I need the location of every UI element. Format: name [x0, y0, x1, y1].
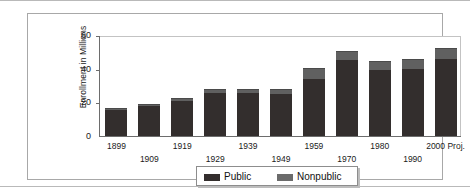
- bars-layer: [100, 36, 460, 136]
- bar-segment-public: [204, 93, 226, 136]
- x-axis-tick-label: 1909: [126, 154, 172, 164]
- y-axis-tick-label: 40: [69, 65, 91, 74]
- x-axis-tick-label: 1929: [192, 154, 238, 164]
- bar-segment-nonpublic: [435, 48, 457, 59]
- bar-segment-nonpublic: [336, 51, 358, 60]
- bar: [402, 59, 424, 136]
- y-axis-tick-label: 60: [69, 31, 91, 40]
- page-rule-top: [0, 0, 470, 1]
- x-axis-tick-label: 1949: [258, 154, 304, 164]
- legend-entry-public: Public: [204, 170, 251, 184]
- page-rule-bottom: [0, 186, 470, 187]
- bar: [369, 61, 391, 136]
- bar: [171, 98, 193, 136]
- x-axis-tick-label: 1990: [390, 154, 436, 164]
- bar-segment-public: [138, 106, 160, 136]
- x-axis-tick-label: 1919: [159, 141, 205, 151]
- bar-segment-public: [336, 60, 358, 136]
- bar-segment-public: [105, 110, 127, 136]
- x-axis-tick-label: 1959: [291, 141, 337, 151]
- bar-segment-nonpublic: [369, 61, 391, 69]
- y-axis-tick-label: 0: [69, 132, 91, 141]
- bar: [336, 51, 358, 136]
- bar: [105, 108, 127, 136]
- bar-segment-nonpublic: [402, 59, 424, 69]
- bar-segment-nonpublic: [138, 104, 160, 106]
- bar-segment-public: [303, 79, 325, 136]
- bar-segment-nonpublic: [303, 68, 325, 79]
- bar-segment-public: [237, 93, 259, 136]
- bar: [270, 89, 292, 136]
- bar-segment-public: [270, 94, 292, 136]
- bar: [435, 48, 457, 136]
- x-axis-tick-label: 1939: [225, 141, 271, 151]
- chart-outer-frame: Enrollment in Millions 0204060 189919091…: [27, 13, 443, 180]
- bar: [138, 104, 160, 136]
- bar: [303, 68, 325, 136]
- bar-segment-nonpublic: [171, 98, 193, 100]
- bar-segment-nonpublic: [204, 89, 226, 93]
- x-axis-tick-label: 1970: [324, 154, 370, 164]
- nonpublic-swatch-icon: [277, 174, 293, 181]
- public-swatch-icon: [204, 174, 220, 181]
- x-axis-tick-label: 1980: [357, 141, 403, 151]
- bar-segment-nonpublic: [270, 89, 292, 94]
- legend-entry-nonpublic: Nonpublic: [277, 170, 341, 184]
- x-axis-tick-label: 2000 Proj.: [423, 141, 469, 151]
- bar-segment-public: [435, 59, 457, 136]
- bar-segment-public: [171, 101, 193, 136]
- bar-segment-nonpublic: [105, 108, 127, 110]
- bar-segment-nonpublic: [237, 89, 259, 92]
- x-axis-tick-label: 1899: [93, 141, 139, 151]
- bar: [237, 89, 259, 136]
- bar: [204, 89, 226, 136]
- legend-label-nonpublic: Nonpublic: [297, 172, 341, 182]
- enrollment-bar-chart-figure: Enrollment in Millions 0204060 189919091…: [0, 0, 470, 188]
- bar-segment-public: [369, 70, 391, 136]
- x-axis-baseline: [99, 136, 461, 137]
- legend-label-public: Public: [224, 172, 251, 182]
- chart-legend: Public Nonpublic: [196, 166, 358, 186]
- bar-segment-public: [402, 69, 424, 136]
- y-axis-tick-label: 20: [69, 98, 91, 107]
